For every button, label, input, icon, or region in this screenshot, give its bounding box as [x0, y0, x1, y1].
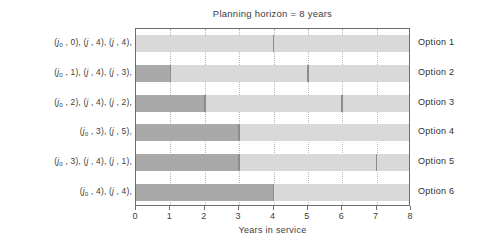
segment-divider	[204, 95, 206, 112]
bar-segment	[239, 124, 410, 141]
gridline-x-6	[342, 29, 344, 205]
gridline-x-4	[274, 29, 276, 205]
bar-segment	[239, 154, 377, 171]
row-label-left: (j0 , 3), (j , 5),	[4, 126, 132, 137]
x-tick-mark-4	[273, 206, 274, 210]
gridline-x-2	[205, 29, 207, 205]
x-tick-label-4: 4	[263, 211, 283, 221]
bar-segment	[136, 65, 170, 82]
bar-segment	[136, 154, 239, 171]
bar-row	[136, 95, 409, 112]
bar-segment	[136, 184, 274, 201]
bar-segment	[205, 95, 343, 112]
x-tick-mark-8	[410, 206, 411, 210]
x-tick-label-8: 8	[400, 211, 420, 221]
row-label-option: Option 2	[418, 67, 454, 77]
x-tick-mark-2	[204, 206, 205, 210]
segment-divider	[238, 154, 240, 171]
bar-row	[136, 65, 409, 82]
segment-divider	[170, 65, 172, 82]
row-label-option: Option 6	[418, 186, 454, 196]
segment-divider	[341, 95, 343, 112]
x-tick-label-0: 0	[125, 211, 145, 221]
row-label-left: (j0 , 4), (j , 4),	[4, 186, 132, 197]
gridline-x-5	[308, 29, 310, 205]
x-tick-label-1: 1	[159, 211, 179, 221]
bar-segment	[308, 65, 410, 82]
bar-segment	[136, 95, 205, 112]
plot-area	[135, 28, 410, 206]
right-axis-labels: Option 1Option 2Option 3Option 4Option 5…	[418, 28, 488, 206]
bar-row	[136, 154, 409, 171]
segment-divider	[273, 184, 275, 201]
segment-divider	[376, 154, 378, 171]
left-axis-labels: (j0 , 0), (j , 4), (j , 4),(j0 , 1), (j …	[0, 28, 132, 206]
x-tick-mark-5	[307, 206, 308, 210]
bar-segment	[136, 35, 274, 52]
gridline-x-7	[377, 29, 379, 205]
row-label-option: Option 1	[418, 37, 454, 47]
chart-title: Planning horizon = 8 years	[135, 8, 410, 19]
bar-segment	[377, 154, 410, 171]
row-label-option: Option 4	[418, 126, 454, 136]
bar-row	[136, 184, 409, 201]
x-tick-label-3: 3	[228, 211, 248, 221]
row-label-left: (j0 , 2), (j , 4), (j , 2),	[4, 97, 132, 108]
row-label-left: (j0 , 0), (j , 4), (j , 4),	[4, 37, 132, 48]
segment-divider	[273, 35, 275, 52]
bar-segment	[274, 35, 411, 52]
segment-divider	[307, 65, 309, 82]
bar-segment	[342, 95, 410, 112]
gridline-x-1	[170, 29, 172, 205]
bar-segment	[136, 124, 239, 141]
x-tick-label-6: 6	[331, 211, 351, 221]
x-tick-mark-3	[238, 206, 239, 210]
x-tick-label-7: 7	[366, 211, 386, 221]
segment-divider	[238, 124, 240, 141]
x-axis-title: Years in service	[135, 225, 410, 235]
x-tick-mark-6	[341, 206, 342, 210]
row-label-option: Option 3	[418, 97, 454, 107]
row-label-option: Option 5	[418, 156, 454, 166]
planning-horizon-gantt-chart: Planning horizon = 8 years (j0 , 0), (j …	[0, 0, 490, 246]
row-label-left: (j0 , 1), (j , 4), (j , 3),	[4, 67, 132, 78]
x-tick-mark-1	[169, 206, 170, 210]
x-tick-label-2: 2	[194, 211, 214, 221]
bar-segment	[274, 184, 411, 201]
bar-row	[136, 35, 409, 52]
row-label-left: (j0 , 3), (j , 4), (j , 1),	[4, 156, 132, 167]
bar-segment	[170, 65, 308, 82]
x-tick-mark-0	[135, 206, 136, 210]
x-axis: Years in service 012345678	[135, 206, 410, 240]
gridline-x-3	[239, 29, 241, 205]
bar-row	[136, 124, 409, 141]
x-tick-mark-7	[376, 206, 377, 210]
x-tick-label-5: 5	[297, 211, 317, 221]
